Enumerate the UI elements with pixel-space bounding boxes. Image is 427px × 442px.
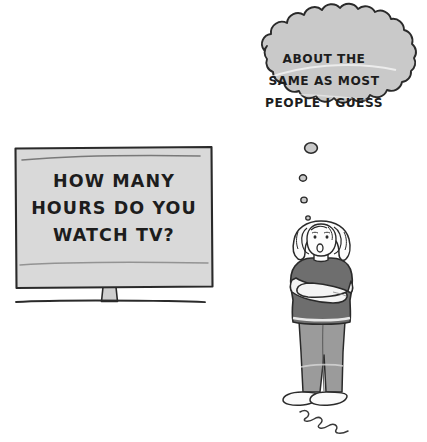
person-pants xyxy=(299,321,345,392)
thought-dot-3 xyxy=(301,197,307,203)
thought-dot-1 xyxy=(305,143,318,153)
person-eye-right xyxy=(326,235,329,239)
thought-bubble: ABOUT THE SAME AS MOST PEOPLE I GUESS xyxy=(252,4,416,220)
person-eye-left xyxy=(314,235,317,239)
survey-sign: HOW MANY HOURS DO YOU WATCH TV? xyxy=(16,147,213,302)
sign-line-1: HOW MANY xyxy=(53,171,175,191)
ground-squiggle xyxy=(300,411,348,434)
thought-dot-2 xyxy=(299,175,306,181)
standing-person xyxy=(283,221,353,405)
sign-line-3: WATCH TV? xyxy=(53,225,175,245)
person-shoe-right xyxy=(310,392,347,405)
sign-post xyxy=(102,287,118,302)
person-mouth xyxy=(317,244,323,252)
bubble-line-2: SAME AS MOST xyxy=(269,74,380,88)
bubble-line-1: ABOUT THE xyxy=(283,52,366,66)
cartoon-illustration: HOW MANY HOURS DO YOU WATCH TV? ABOUT TH… xyxy=(0,0,427,442)
bubble-line-3: PEOPLE I GUESS xyxy=(265,96,383,110)
thought-dot-4 xyxy=(306,216,311,220)
sign-line-2: HOURS DO YOU xyxy=(31,198,197,218)
